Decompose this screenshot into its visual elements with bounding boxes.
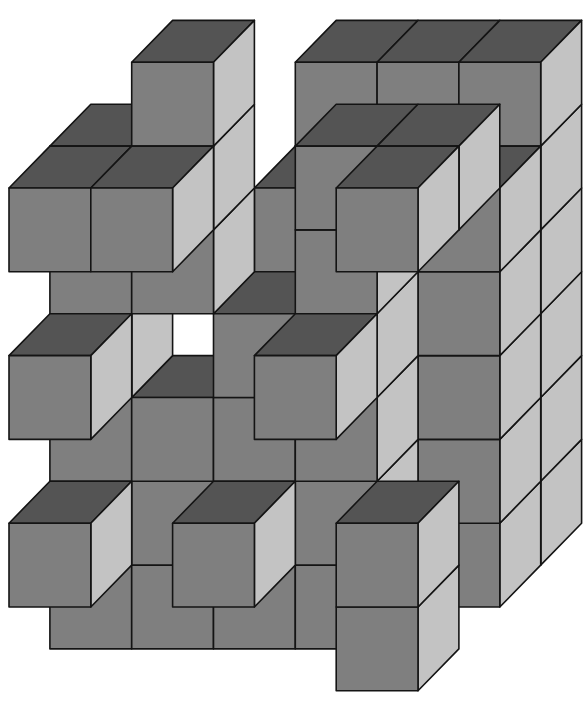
cube-front-face	[173, 523, 255, 607]
cube-front-face	[418, 272, 500, 356]
cube-assembly-drawing	[0, 0, 586, 710]
cube-front-face	[9, 523, 91, 607]
cube-front-face	[9, 188, 91, 272]
cube-figure: Isometric cube assembly	[0, 0, 586, 710]
cube-front-face	[132, 398, 214, 482]
cube-front-face	[254, 356, 336, 440]
cube-front-face	[418, 356, 500, 440]
cube-front-face	[91, 188, 173, 272]
cube-front-face	[336, 607, 418, 691]
cube-front-face	[132, 62, 214, 146]
cube-front-face	[9, 356, 91, 440]
cube-front-face	[336, 523, 418, 607]
cube-front-face	[336, 188, 418, 272]
